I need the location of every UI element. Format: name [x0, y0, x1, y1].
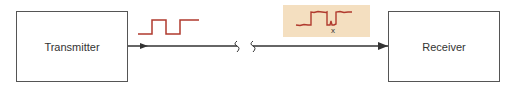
transmitted-signal: [138, 20, 199, 34]
diagram-lines: [0, 0, 513, 89]
arrow-head-right: [378, 42, 388, 50]
arrow-head-left: [140, 43, 148, 49]
received-signal: [296, 12, 352, 26]
